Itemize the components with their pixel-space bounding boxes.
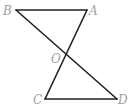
label-b: B <box>2 4 12 18</box>
geometry-diagram: B A O C D <box>0 0 135 111</box>
label-d: D <box>117 93 128 107</box>
label-a: A <box>88 4 98 18</box>
label-c: C <box>33 93 42 107</box>
segment-bd <box>16 10 117 99</box>
label-o: O <box>51 52 61 66</box>
